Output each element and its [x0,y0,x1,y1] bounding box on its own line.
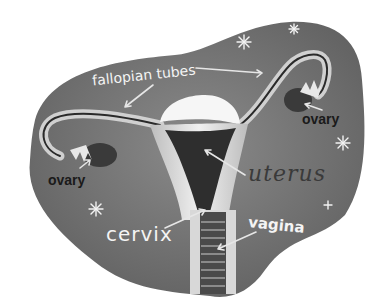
label-uterus: uterus [248,163,326,185]
star-icon [289,24,299,34]
label-ovary-right: ovary [302,112,339,126]
illustration-canvas [0,0,381,305]
star-icon [237,35,251,49]
reproductive-system-illustration: fallopian tubes ovary ovary uterus cervi… [0,0,381,305]
label-ovary-left: ovary [48,173,85,187]
label-cervix: cervix [106,224,173,244]
star-icon [89,202,103,216]
left-ovary [83,143,117,167]
star-icon [336,136,350,150]
